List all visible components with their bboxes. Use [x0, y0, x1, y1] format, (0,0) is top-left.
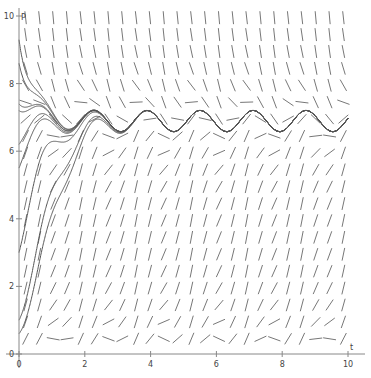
- slope-segment: [244, 130, 249, 142]
- slope-segment: [80, 45, 83, 58]
- slope-segment: [202, 97, 209, 108]
- slope-segment: [161, 248, 166, 260]
- slope-segment: [103, 319, 115, 325]
- slope-segment: [177, 11, 178, 24]
- slope-segment: [148, 164, 152, 176]
- slope-segment: [329, 28, 330, 41]
- slope-segment: [259, 79, 263, 91]
- slope-segment: [39, 11, 40, 24]
- slope-segment: [200, 335, 210, 343]
- slope-segment: [102, 336, 114, 341]
- slope-segment: [342, 248, 345, 261]
- slope-segment: [245, 163, 248, 176]
- slope-segment: [173, 132, 183, 141]
- slope-segment: [80, 197, 83, 210]
- slope-segment: [161, 214, 166, 226]
- slope-segment: [65, 79, 69, 92]
- slope-segment: [24, 265, 27, 278]
- slope-segment: [313, 164, 319, 175]
- slope-segment: [21, 115, 31, 124]
- slope-segment: [287, 28, 289, 41]
- solution-curve: [19, 111, 348, 145]
- x-tick-label: 8: [280, 360, 285, 369]
- slope-segment: [246, 28, 248, 41]
- y-tick-label: 2: [9, 282, 14, 291]
- slope-segment: [231, 197, 234, 210]
- slope-segment: [342, 231, 345, 244]
- slope-segment: [61, 135, 74, 137]
- slope-segment: [313, 299, 319, 310]
- slope-segment: [287, 265, 290, 278]
- slope-segment: [340, 130, 346, 142]
- slope-segment: [78, 333, 83, 345]
- slope-segment: [245, 299, 248, 312]
- slope-segment: [79, 163, 82, 176]
- slope-segment: [272, 231, 277, 243]
- slope-segment: [273, 79, 276, 92]
- slope-segment: [79, 299, 82, 312]
- slope-segment: [231, 265, 234, 278]
- slope-segment: [258, 299, 264, 311]
- slope-segment: [174, 147, 180, 158]
- slope-segment: [149, 45, 151, 58]
- slope-segment: [89, 98, 100, 106]
- slope-segment: [38, 299, 42, 312]
- slope-segment: [228, 98, 237, 107]
- slope-segment: [285, 79, 291, 91]
- solution-curve: [19, 111, 348, 334]
- slope-segment: [134, 316, 138, 328]
- slope-segment: [80, 28, 82, 41]
- slope-segment: [120, 79, 124, 91]
- slope-segment: [218, 11, 219, 24]
- slope-segment: [105, 181, 111, 192]
- slope-segment: [149, 28, 151, 41]
- slope-segment: [116, 336, 128, 342]
- slope-segment: [163, 11, 164, 24]
- slope-segment: [187, 80, 195, 90]
- slope-segment: [50, 282, 56, 294]
- slope-segment: [245, 231, 247, 244]
- slope-segment: [79, 316, 83, 328]
- slope-segment: [51, 265, 56, 277]
- slope-segment: [258, 164, 264, 176]
- slope-segment: [50, 164, 57, 175]
- slope-segment: [260, 45, 262, 58]
- slope-segment: [134, 333, 139, 345]
- slope-segment: [190, 265, 193, 278]
- slope-segment: [161, 282, 167, 293]
- slope-segment: [314, 248, 318, 260]
- slope-segment: [51, 198, 56, 210]
- slope-field-chart: 02468100246810tP: [0, 0, 371, 378]
- slope-segment: [148, 180, 152, 192]
- slope-segment: [315, 45, 317, 58]
- slope-segment: [23, 147, 27, 159]
- slope-segment: [190, 147, 194, 159]
- slope-segment: [327, 181, 333, 193]
- slope-segment: [175, 164, 180, 176]
- solution-curve: [19, 104, 348, 132]
- axes: 02468100246810tP: [4, 8, 365, 369]
- slope-segment: [191, 11, 193, 24]
- slope-segment: [257, 96, 263, 107]
- slope-segment: [300, 180, 303, 193]
- slope-segment: [108, 11, 109, 24]
- x-tick-label: 4: [148, 360, 153, 369]
- slope-segment: [204, 248, 207, 261]
- slope-segment: [328, 62, 330, 75]
- slope-segment: [213, 133, 225, 139]
- slope-segment: [94, 11, 95, 24]
- slope-segment: [62, 115, 72, 124]
- slope-segment: [218, 45, 220, 58]
- slope-segment: [108, 45, 110, 58]
- slope-segment: [176, 282, 180, 294]
- slope-segment: [260, 28, 262, 41]
- slope-segment: [342, 265, 345, 278]
- slope-segment: [162, 79, 165, 92]
- slope-segment: [205, 11, 206, 24]
- slope-segment: [135, 11, 137, 24]
- slope-segment: [135, 282, 138, 295]
- slope-segment: [309, 338, 322, 340]
- slope-segment: [65, 282, 70, 294]
- slope-segment: [218, 79, 221, 92]
- slope-segment: [273, 45, 275, 58]
